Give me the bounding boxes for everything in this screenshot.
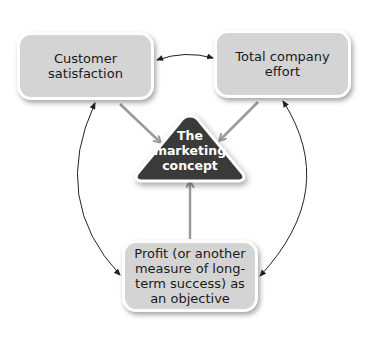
link-cs-tce (157, 54, 213, 60)
marketing-concept-label: The marketing concept (150, 128, 230, 173)
customer-satisfaction-label: Customer satisfaction (36, 51, 136, 81)
total-company-effort-label: Total company effort (228, 49, 338, 79)
marketing-concept-line-2: marketing (150, 143, 230, 158)
total-company-effort-node: Total company effort (214, 30, 351, 98)
marketing-concept-line-3: concept (150, 158, 230, 173)
link-tce-profit (260, 101, 307, 276)
profit-objective-label: Profit (or another measure of long-term … (129, 246, 251, 306)
link-cs-profit (77, 103, 120, 275)
customer-satisfaction-node: Customer satisfaction (17, 32, 154, 100)
profit-objective-node: Profit (or another measure of long-term … (122, 240, 258, 312)
marketing-concept-line-1: The (150, 128, 230, 143)
